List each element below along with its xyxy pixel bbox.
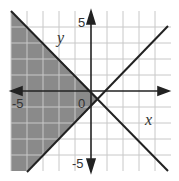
x-min-tick-label: -5 [12, 96, 24, 111]
y-axis-label: y [55, 29, 65, 47]
y-axis-down-arrow-icon [87, 159, 95, 172]
y-axis-up-arrow-icon [87, 11, 95, 24]
coordinate-plane: 5 -5 -5 0 y x [0, 0, 179, 181]
y-min-tick-label: -5 [72, 156, 84, 171]
x-axis-label: x [144, 111, 152, 128]
origin-label: 0 [78, 96, 85, 111]
y-max-tick-label: 5 [78, 15, 85, 30]
x-axis-right-arrow-icon [158, 87, 169, 95]
